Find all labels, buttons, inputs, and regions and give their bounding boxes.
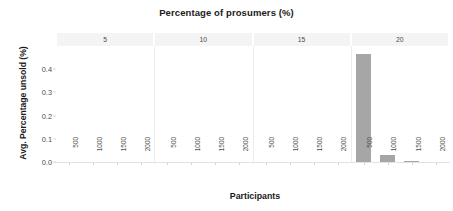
x-axis-tick-mark	[239, 162, 240, 165]
y-axis-tick-mark	[53, 115, 56, 116]
y-axis-tick-mark	[53, 138, 56, 139]
y-axis-tick-label: 0.0	[30, 158, 52, 167]
x-axis-tick-mark	[364, 162, 365, 165]
facet-strip-label: 15	[254, 33, 350, 46]
facet-strip-label: 20	[352, 33, 448, 46]
x-axis-tick-label: 500	[268, 137, 275, 167]
x-axis-tick-mark	[388, 162, 389, 165]
x-axis-tick-mark	[314, 162, 315, 165]
y-axis-tick-mark	[53, 162, 56, 163]
y-axis-tick-labels: 0.00.10.20.30.4	[28, 0, 52, 211]
x-axis-title: Participants	[57, 191, 453, 201]
x-axis-tick-label: 1500	[120, 137, 127, 167]
x-axis-tick-mark	[215, 162, 216, 165]
x-axis-tick-mark	[436, 162, 437, 165]
y-axis-tick-label: 0.4	[30, 65, 52, 74]
bar-chart: Percentage of prosumers (%) Avg. Percent…	[0, 0, 453, 211]
x-axis-tick-label: 1000	[390, 137, 397, 167]
x-axis-tick-label: 500	[72, 137, 79, 167]
x-axis-tick-mark	[191, 162, 192, 165]
x-axis-tick-mark	[290, 162, 291, 165]
y-axis-title: Avg. Percentage unsold (%)	[18, 33, 28, 173]
facet-strip-label: 10	[155, 33, 251, 46]
x-axis-tick-mark	[93, 162, 94, 165]
x-axis-tick-label: 1500	[415, 137, 422, 167]
x-axis-tick-label: 2000	[340, 137, 347, 167]
x-axis-tick-mark	[412, 162, 413, 165]
y-axis-tick-mark	[53, 92, 56, 93]
x-axis-tick-label: 2000	[439, 137, 446, 167]
facet-strip-label: 5	[57, 33, 153, 46]
x-axis-tick-mark	[338, 162, 339, 165]
x-axis-tick-mark	[69, 162, 70, 165]
x-axis-tick-label: 1000	[292, 137, 299, 167]
x-axis-tick-mark	[167, 162, 168, 165]
y-axis-tick-label: 0.2	[30, 111, 52, 120]
chart-title: Percentage of prosumers (%)	[0, 7, 453, 18]
x-axis-tick-label: 1500	[316, 137, 323, 167]
x-axis-tick-label: 500	[366, 137, 373, 167]
x-axis-tick-label: 1000	[96, 137, 103, 167]
x-axis-tick-label: 1500	[218, 137, 225, 167]
x-axis-tick-mark	[266, 162, 267, 165]
y-axis-tick-mark	[53, 69, 56, 70]
y-axis-tick-label: 0.3	[30, 88, 52, 97]
x-axis-tick-mark	[117, 162, 118, 165]
x-axis-tick-label: 2000	[144, 137, 151, 167]
x-axis-tick-mark	[141, 162, 142, 165]
x-axis-tick-label: 500	[170, 137, 177, 167]
x-axis-tick-label: 2000	[242, 137, 249, 167]
x-axis-tick-label: 1000	[194, 137, 201, 167]
y-axis-tick-label: 0.1	[30, 134, 52, 143]
